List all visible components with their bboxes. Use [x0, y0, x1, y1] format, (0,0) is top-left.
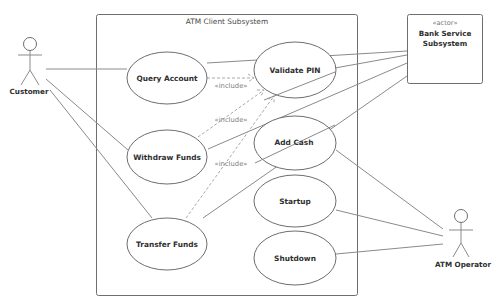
- actor-head-icon: [24, 38, 37, 51]
- use-case-label-transfer-funds: Transfer Funds: [136, 240, 198, 249]
- actor-leg-icon: [30, 70, 39, 85]
- actor-customer-figure[interactable]: [18, 38, 42, 86]
- use-case-label-startup: Startup: [279, 197, 311, 206]
- use-case-label-query-account: Query Account: [136, 74, 197, 83]
- bank-actor-name: Bank Service Subsystem: [410, 29, 480, 49]
- system-boundary-title: ATM Client Subsystem: [186, 17, 268, 26]
- include-label-withdraw-funds: «include»: [215, 116, 248, 124]
- bank-actor-stereotype: «actor»: [432, 19, 457, 27]
- actor-atm-operator-label: ATM Operator: [435, 260, 491, 269]
- include-label-transfer-funds: «include»: [215, 160, 248, 168]
- actor-leg-icon: [21, 70, 30, 85]
- bank-actor-name-line2: Subsystem: [410, 39, 480, 49]
- bank-actor-name-line1: Bank Service: [410, 29, 480, 39]
- actor-customer-label: Customer: [10, 87, 49, 96]
- use-case-label-add-cash: Add Cash: [275, 138, 314, 147]
- actor-head-icon: [455, 210, 468, 223]
- actor-atm-operator-figure[interactable]: [449, 210, 473, 258]
- use-case-label-shutdown: Shutdown: [274, 254, 316, 263]
- actor-leg-icon: [461, 243, 469, 257]
- use-case-label-validate-pin: Validate PIN: [269, 66, 320, 75]
- actor-leg-icon: [453, 243, 461, 257]
- include-label-query-account: «include»: [215, 82, 248, 90]
- use-case-label-withdraw-funds: Withdraw Funds: [133, 153, 201, 162]
